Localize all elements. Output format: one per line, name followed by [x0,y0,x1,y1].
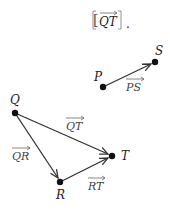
vector-label-qt: QT [66,116,84,133]
vector-qt-label: QT [66,120,84,133]
vector-label-ps: PS [125,77,144,94]
vector-label-qr: QR [12,146,30,163]
vector-ps-label: PS [125,81,141,94]
point-p [100,84,106,90]
point-t [109,153,115,159]
open-bracket: [ [93,12,98,28]
label-p: P [93,70,103,84]
label-s: S [155,44,163,58]
vector-diagram: [ QT . P S PS Q R T QT QR [0,0,170,210]
vector-rt-label: RT [87,180,105,193]
header-vector-label: QT [99,15,118,29]
label-q: Q [10,93,20,107]
label-t: T [121,149,130,163]
point-r [57,179,63,185]
trailing-period: . [126,17,130,31]
vector-qr-label: QR [12,150,29,163]
point-q [12,110,18,116]
vector-label-rt: RT [87,176,105,193]
label-r: R [55,188,65,202]
header-expression: [ QT . [93,11,130,31]
vector-rt-arrow [60,158,108,182]
point-s [152,59,158,65]
